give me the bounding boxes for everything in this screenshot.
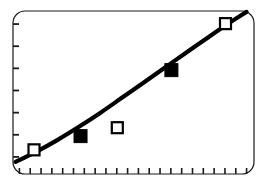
open-square-marker [29, 144, 40, 155]
open-square-marker [220, 18, 231, 29]
filled-square-marker [74, 130, 87, 143]
open-square-marker [112, 122, 123, 133]
chart-figure [0, 0, 265, 187]
filled-square-marker [165, 64, 178, 77]
chart-canvas [0, 0, 265, 187]
